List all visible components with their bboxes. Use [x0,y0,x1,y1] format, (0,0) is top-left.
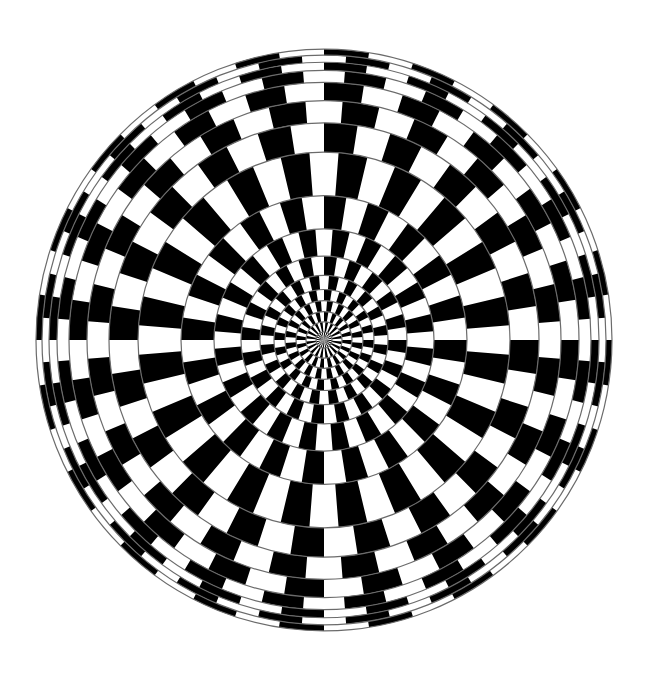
checker-cell [508,340,539,374]
illusion-canvas: Radial checkerboard optical illusion [0,0,646,684]
checker-cell [290,526,324,558]
checker-cell [324,123,358,155]
radial-checkerboard-figure [0,0,646,684]
checker-cell [109,306,140,340]
